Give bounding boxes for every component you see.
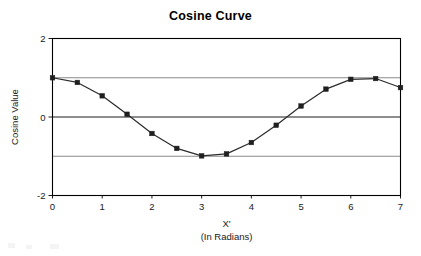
scan-artifact	[50, 244, 59, 249]
data-point-marker	[75, 80, 80, 85]
chart-figure: Cosine Curve 01234567 20-2 Cosine Value …	[0, 0, 421, 256]
cosine-curve-plot: 01234567 20-2 Cosine Value X' (In Radian…	[0, 0, 421, 256]
data-point-marker	[224, 152, 229, 157]
x-axis-title: X'	[222, 218, 230, 229]
data-point-marker	[100, 94, 105, 99]
y-axis-title: Cosine Value	[9, 89, 20, 145]
scan-artifact	[26, 245, 32, 249]
data-point-marker	[274, 123, 279, 128]
x-tick-label: 6	[348, 201, 353, 212]
x-tick-label: 3	[199, 201, 204, 212]
y-tick-label: -2	[37, 190, 45, 201]
x-tick-label: 1	[100, 201, 105, 212]
data-point-marker	[150, 131, 155, 136]
x-tick-label: 4	[249, 201, 254, 212]
data-point-marker	[299, 104, 304, 109]
data-point-marker	[50, 75, 55, 80]
y-tick-label: 0	[40, 112, 45, 123]
x-tick-label: 7	[398, 201, 403, 212]
x-tick-label: 0	[50, 201, 55, 212]
data-point-marker	[348, 77, 353, 82]
data-point-marker	[398, 85, 403, 90]
y-tick-labels-group: 20-2	[37, 33, 45, 201]
data-point-marker	[373, 76, 378, 81]
data-point-marker	[199, 154, 204, 159]
data-point-marker	[324, 87, 329, 92]
data-point-marker	[249, 140, 254, 145]
data-point-marker	[125, 112, 130, 117]
gridlines-group	[53, 78, 401, 157]
tick-marks-group	[49, 39, 401, 199]
data-point-marker	[174, 146, 179, 151]
x-tick-labels-group: 01234567	[50, 201, 403, 212]
scan-artifact	[8, 243, 15, 248]
x-tick-label: 2	[149, 201, 154, 212]
y-tick-label: 2	[40, 33, 45, 44]
x-axis-subtitle: (In Radians)	[201, 231, 253, 242]
x-tick-label: 5	[298, 201, 303, 212]
